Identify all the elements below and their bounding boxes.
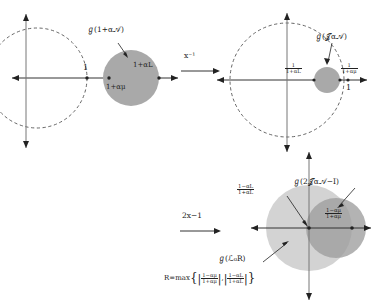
fraction-denominator: 1+αL (237, 189, 254, 195)
x-axis-arrow-right (171, 75, 178, 81)
radius-formula: R=max{| 1−αμ 1+αμ |,| 1−αL 1+αL |} (164, 272, 255, 285)
tick-dot-right-edge (157, 76, 160, 79)
formula-lhs: R=max (164, 274, 190, 282)
panel-three-upper-fraction: 1−αL 1+αL (237, 184, 254, 196)
tick-dot-one (85, 76, 88, 79)
formula-term-one-denominator: 1+αμ (201, 278, 218, 284)
x-axis-arrow-left (251, 225, 258, 231)
arrow-inverse-label: x⁻¹ (184, 52, 195, 60)
fraction-denominator: 1+αμ (341, 68, 358, 74)
x-axis-arrow-left (12, 75, 19, 81)
panel-two-canvas (215, 0, 373, 160)
y-axis-arrow-up (23, 14, 29, 21)
panel-one-canvas (0, 0, 190, 160)
formula-open-brace: { (190, 271, 198, 285)
fraction-denominator: 1+αμ (325, 213, 342, 219)
panel-two-set-label: ℊ(𝒥α𝒜) (315, 33, 347, 41)
y-axis-arrow-up (284, 13, 290, 20)
tick-dot-right-edge (338, 78, 341, 81)
panel-one-axis-tick: 1 (83, 64, 88, 72)
panel-three-dark-set-label: ℊ(2𝒥α𝒜−I) (293, 178, 339, 186)
formula-close-brace: } (248, 271, 256, 285)
y-axis-arrow-down (23, 141, 29, 148)
panel-one-disk-right-label: 1+αL (133, 62, 153, 69)
tick-dot-left-edge (312, 78, 315, 81)
panel-two-left-fraction: 1 1+αL (285, 63, 302, 74)
pointer-head-set-label (324, 58, 330, 65)
x-axis-arrow-right (364, 225, 371, 231)
panel-two: ℊ(𝒥α𝒜) 1 1+αL 1 1+αμ 1 (215, 0, 373, 160)
panel-three-right-fraction: 1−αμ 1+αμ (325, 208, 342, 220)
y-axis-arrow-up (306, 152, 312, 159)
panel-two-axis-tick: 1 (346, 84, 351, 92)
y-axis-arrow-down (306, 293, 312, 300)
x-axis-arrow-right (360, 77, 367, 83)
panel-three-light-set-label: ℊ(ℒ₀R) (218, 255, 246, 263)
panel-two-right-fraction: 1 1+αμ (341, 63, 358, 74)
tick-dot-right-edge (350, 226, 354, 230)
panel-one-set-label: ℊ(1+α𝒜) (87, 26, 124, 34)
panel-one: ℊ(1+α𝒜) 1 1+αL 1+αμ (0, 0, 190, 160)
disk-g-one-plus-alpha-a (103, 50, 159, 106)
formula-term-two-denominator: 1+αL (227, 278, 244, 284)
panel-one-disk-left-label: 1+αμ (106, 84, 126, 91)
tick-dot-one (346, 78, 349, 81)
disk-g-resolvent (314, 67, 340, 93)
x-axis-arrow-left (217, 77, 224, 83)
arrow-reflect-label: 2x−1 (182, 212, 202, 220)
tick-dot-left-edge (107, 76, 110, 79)
fraction-denominator: 1+αL (285, 68, 302, 74)
